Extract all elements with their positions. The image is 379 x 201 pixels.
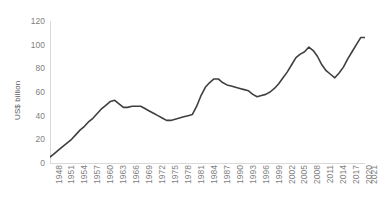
x-tick-label: 2008 [312, 165, 322, 184]
x-tick-label: 2002 [287, 165, 297, 184]
y-axis-tick-labels: 020406080100120 [22, 0, 48, 201]
y-tick-label: 20 [36, 134, 45, 144]
x-tick-label: 2021 [369, 165, 379, 184]
plot-area [50, 21, 365, 163]
x-tick-label: 2017 [351, 165, 361, 184]
x-tick-label: 2011 [325, 165, 335, 183]
x-tick-label: 1975 [170, 165, 180, 184]
x-tick-label: 2005 [299, 165, 309, 184]
y-tick-label: 80 [36, 63, 45, 73]
x-tick-label: 1972 [157, 165, 167, 184]
x-tick-label: 1999 [274, 165, 284, 184]
y-tick-label: 100 [31, 40, 45, 50]
x-tick-label: 1951 [66, 165, 76, 184]
x-axis-tick-labels: 1948195119541957196019631966196919721975… [50, 163, 365, 201]
x-tick-label: 1948 [54, 165, 64, 184]
x-tick-label: 1966 [131, 165, 141, 184]
x-tick-label: 1969 [144, 165, 154, 184]
data-line-series [50, 21, 365, 163]
x-tick-label: 1990 [235, 165, 245, 184]
y-tick-label: 0 [40, 158, 45, 168]
x-tick-label: 1981 [196, 165, 206, 184]
y-tick-label: 60 [36, 87, 45, 97]
y-tick-label: 40 [36, 111, 45, 121]
y-tick-label: 120 [31, 16, 45, 26]
x-tick-label: 1963 [118, 165, 128, 184]
x-tick-label: 1957 [92, 165, 102, 184]
x-tick-label: 1984 [209, 165, 219, 184]
x-tick-label: 1978 [183, 165, 193, 184]
x-tick-label: 2014 [338, 165, 348, 184]
x-tick-label: 1960 [105, 165, 115, 184]
x-tick-label: 1954 [79, 165, 89, 184]
x-tick-label: 1987 [222, 165, 232, 184]
x-tick-label: 1996 [261, 165, 271, 184]
x-tick-label: 1993 [248, 165, 258, 184]
